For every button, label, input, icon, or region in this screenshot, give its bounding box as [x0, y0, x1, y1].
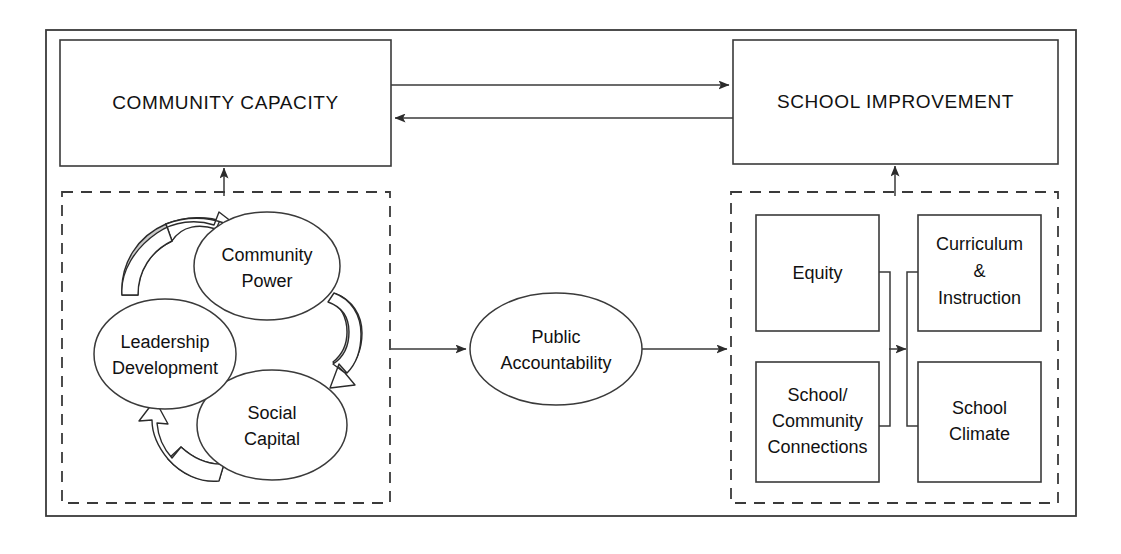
school-community-connections-line3: Connections	[767, 437, 867, 457]
school-climate-line2: Climate	[949, 424, 1010, 444]
curriculum-instruction-line1: Curriculum	[936, 234, 1023, 254]
circle-community-power-line2: Power	[241, 271, 292, 291]
school-climate-box[interactable]	[918, 362, 1041, 482]
circle-leadership-development-line2: Development	[112, 358, 218, 378]
school-community-connections-line1: School/	[787, 385, 847, 405]
school-improvement-label: SCHOOL IMPROVEMENT	[777, 91, 1014, 112]
equity-label: Equity	[792, 263, 842, 283]
circle-leadership-development-line1: Leadership	[120, 332, 209, 352]
public-accountability-node[interactable]	[470, 293, 642, 405]
school-community-connections-line2: Community	[772, 411, 863, 431]
curriculum-instruction-line2: &	[973, 261, 985, 281]
public-accountability-line1: Public	[531, 327, 580, 347]
school-climate-line1: School	[952, 398, 1007, 418]
circle-social-capital-line2: Capital	[244, 429, 300, 449]
public-accountability-line2: Accountability	[500, 353, 611, 373]
right-pair-bracket	[907, 272, 918, 426]
circle-community-power[interactable]	[194, 212, 340, 320]
left-pair-bracket	[879, 272, 890, 426]
diagram-canvas: COMMUNITY CAPACITY SCHOOL IMPROVEMENT	[0, 0, 1121, 554]
community-capacity-school-improvement-diagram: COMMUNITY CAPACITY SCHOOL IMPROVEMENT	[0, 0, 1121, 554]
cycle-arrow-power-to-capital	[328, 293, 362, 388]
curriculum-instruction-line3: Instruction	[938, 288, 1021, 308]
community-capacity-label: COMMUNITY CAPACITY	[112, 92, 339, 113]
circle-leadership-development[interactable]	[94, 299, 236, 409]
circle-community-power-line1: Community	[221, 245, 312, 265]
circle-social-capital-line1: Social	[247, 403, 296, 423]
